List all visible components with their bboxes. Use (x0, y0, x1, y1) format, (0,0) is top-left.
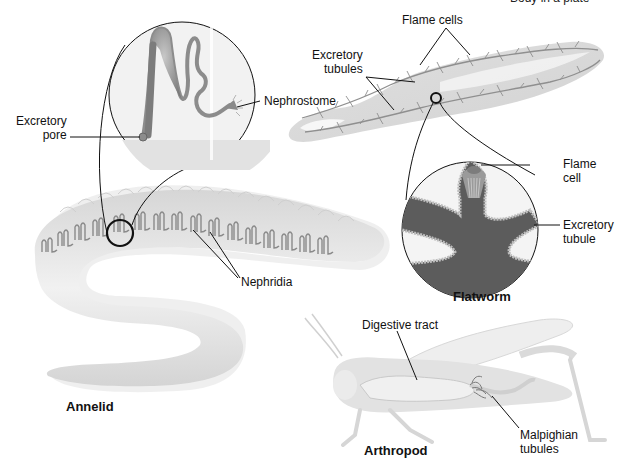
label-excretory-tubule-line1: Excretory (563, 218, 614, 232)
label-excretory-tubule-line2: tubule (563, 232, 614, 246)
label-flame-cell-line2: cell (563, 171, 596, 185)
label-nephridia: Nephridia (241, 275, 292, 289)
annelid-zoom-circle (100, 20, 270, 170)
title-flatworm: Flatworm (453, 289, 511, 304)
label-malpighian-tubules-line2: tubules (520, 442, 578, 456)
title-annelid: Annelid (66, 399, 114, 414)
label-nephrostome: Nephrostome (264, 94, 336, 108)
label-flame-cell-line1: Flame (563, 157, 596, 171)
label-excretory-pore-line2: pore (16, 128, 67, 142)
label-excretory-tubules-line2: tubules (312, 62, 363, 76)
label-excretory-tubule: Excretory tubule (563, 218, 614, 246)
label-excretory-pore: Excretory pore (16, 114, 67, 142)
label-digestive-tract: Digestive tract (362, 318, 438, 332)
arthropod-body (305, 314, 605, 445)
label-excretory-tubules-line1: Excretory (312, 48, 363, 62)
label-excretory-pore-line1: Excretory (16, 114, 67, 128)
label-flame-cell: Flame cell (563, 157, 596, 185)
label-flame-cells: Flame cells (402, 13, 463, 27)
flatworm-zoom-circle (395, 160, 545, 300)
title-arthropod: Arthropod (364, 443, 428, 458)
label-malpighian-tubules-line1: Malpighian (520, 428, 578, 442)
label-excretory-tubules: Excretory tubules (312, 48, 363, 76)
annelid-body (35, 185, 390, 392)
label-malpighian-tubules: Malpighian tubules (520, 428, 578, 456)
